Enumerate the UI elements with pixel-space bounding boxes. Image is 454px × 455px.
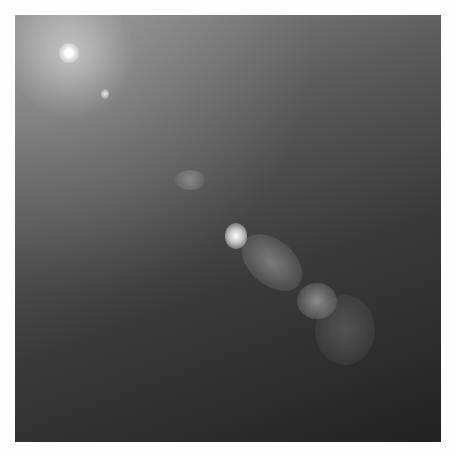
jet-knot-2: [175, 170, 205, 190]
astronomical-photo: [15, 15, 441, 442]
jet-knot-1: [101, 89, 109, 99]
jet-lobe: [315, 295, 375, 365]
galaxy-core: [59, 43, 79, 63]
